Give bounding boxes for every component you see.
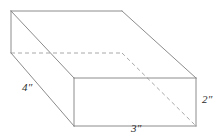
dimension-label-height: 2″ bbox=[202, 94, 212, 105]
dimension-label-width: 3″ bbox=[131, 123, 141, 134]
box-diagram-figure: 4″ 3″ 2″ bbox=[0, 0, 223, 137]
box-wireframe-svg bbox=[0, 0, 223, 137]
solid-edge-group bbox=[11, 11, 196, 126]
edge-top-left-diagonal bbox=[11, 11, 74, 78]
edge-bottom-left-diagonal bbox=[11, 53, 74, 126]
edge-top-right-diagonal bbox=[122, 11, 196, 78]
dimension-label-depth: 4″ bbox=[22, 82, 32, 93]
hidden-edge-group bbox=[11, 53, 196, 126]
hidden-edge-back-bottom-right-to-front-bottom-right bbox=[122, 53, 196, 126]
